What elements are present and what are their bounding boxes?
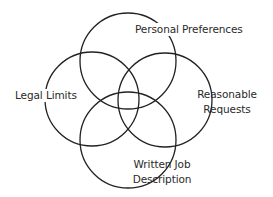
label-personal-preferences: Personal Preferences [134,23,244,36]
label-written-job-line1: Written Job [126,158,198,171]
label-written-job-line2: Description [126,173,198,186]
label-legal-limits: Legal Limits [15,89,77,102]
label-reasonable-requests-line2: Requests [193,103,261,116]
label-written-job-description: Written Job Description [126,158,198,186]
label-reasonable-requests-line1: Reasonable [193,88,261,101]
label-reasonable-requests: Reasonable Requests [193,88,261,116]
venn-diagram: Personal Preferences Legal Limits Reason… [0,0,273,197]
